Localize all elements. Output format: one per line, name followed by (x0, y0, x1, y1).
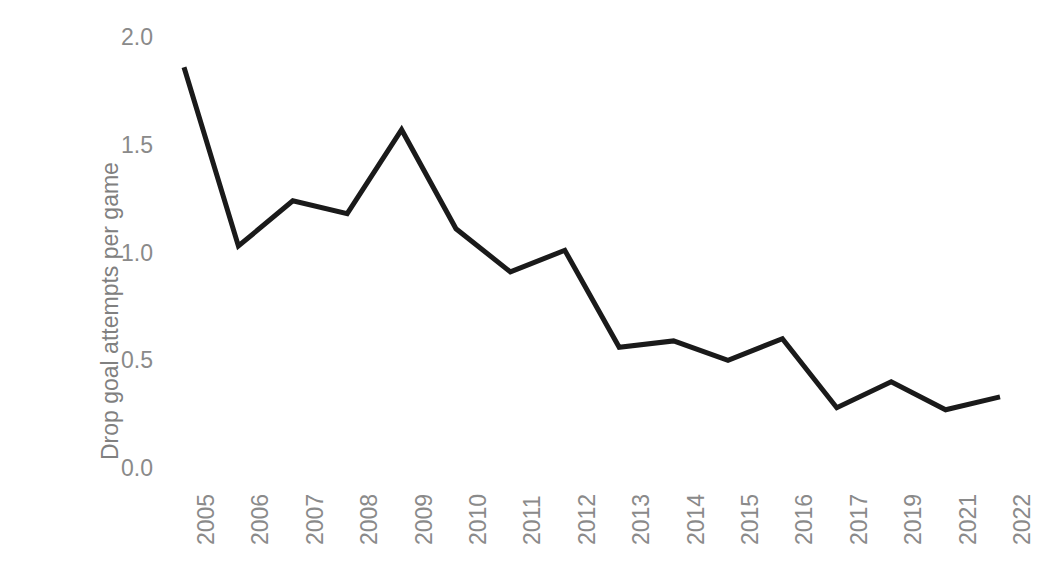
line-chart: Drop goal attempts per game 0.00.51.01.5… (0, 0, 1064, 580)
data-series-line (184, 67, 1000, 410)
plot-area (0, 0, 1064, 580)
